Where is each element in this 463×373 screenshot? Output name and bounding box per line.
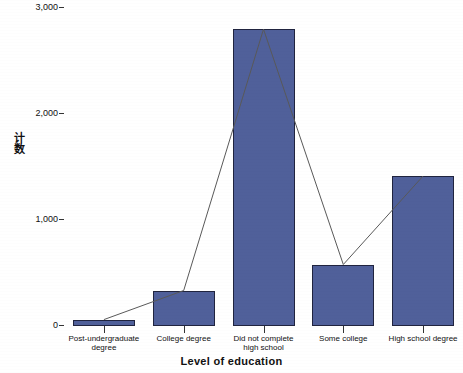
x-axis-title: Level of education (0, 355, 463, 367)
x-tick-label: Post-undergraduate degree (64, 334, 144, 352)
y-tick-label: 2,000 (14, 109, 58, 118)
bar (312, 265, 374, 326)
x-tick-mark (104, 326, 105, 333)
bar (392, 176, 454, 326)
y-tick-label: 3,000 (14, 3, 58, 12)
plot-area (64, 8, 463, 326)
x-axis: Post-undergraduate degreeCollege degreeD… (64, 326, 463, 356)
bar (153, 291, 215, 327)
x-tick-label: College degree (144, 334, 224, 343)
bar-chart: 计 数 01,0002,0003,000 Post-undergraduate … (0, 0, 463, 373)
x-tick-label: Some college (303, 334, 383, 343)
bar (233, 29, 295, 326)
x-tick-mark (264, 326, 265, 333)
y-tick-label: 1,000 (14, 215, 58, 224)
y-tick-label: 0 (14, 321, 58, 330)
x-tick-mark (343, 326, 344, 333)
y-axis-title: 计 数 (9, 133, 29, 155)
y-axis-title-char-2: 数 (9, 144, 29, 155)
x-tick-label: High school degree (383, 334, 463, 343)
x-tick-mark (423, 326, 424, 333)
x-tick-label: Did not complete high school (224, 334, 304, 352)
x-tick-mark (184, 326, 185, 333)
